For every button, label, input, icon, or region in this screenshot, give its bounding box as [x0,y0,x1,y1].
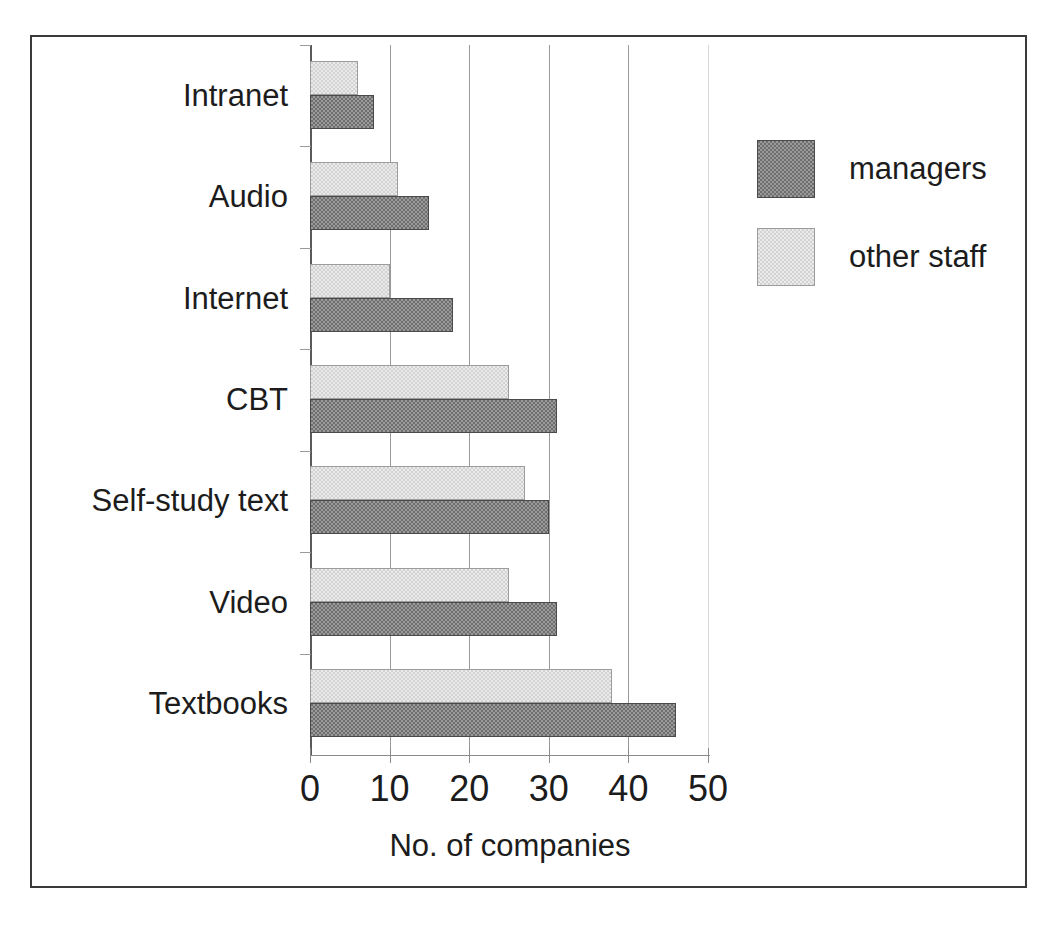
bar-other-staff-video [310,568,509,602]
legend-swatch-managers-icon [757,140,815,198]
legend-swatch-other-staff-icon [757,228,815,286]
x-tick-0 [310,748,311,763]
bar-managers-intranet [310,95,374,129]
bar-other-staff-self-study-text [310,466,525,500]
bar-managers-video [310,602,557,636]
bar-managers-textbooks [310,703,676,737]
chart-legend: managers other staff [757,140,1007,316]
legend-item-other-staff: other staff [757,228,1007,316]
category-label-self-study-text: Self-study text [92,484,288,518]
x-tick-40 [628,748,629,763]
y-tick-4 [300,451,311,452]
y-tick-6 [300,654,311,655]
x-tick-label-20: 20 [429,768,509,810]
y-tick-1 [300,146,311,147]
x-tick-20 [469,748,470,763]
category-label-intranet: Intranet [183,79,288,113]
bar-other-staff-intranet [310,61,358,95]
gridline-50 [708,45,709,755]
bar-managers-self-study-text [310,500,549,534]
bar-other-staff-internet [310,264,390,298]
category-label-cbt: CBT [226,383,288,417]
legend-item-managers: managers [757,140,1007,228]
x-axis-title: No. of companies [310,828,710,864]
x-tick-label-0: 0 [270,768,350,810]
gridline-40 [628,45,629,755]
category-label-textbooks: Textbooks [148,687,288,721]
bar-other-staff-cbt [310,365,509,399]
category-label-audio: Audio [209,180,288,214]
x-tick-label-50: 50 [668,768,748,810]
plot-area [310,45,708,755]
x-tick-30 [549,748,550,763]
category-label-internet: Internet [183,282,288,316]
chart-figure: 01020304050 IntranetAudioInternetCBTSelf… [0,0,1054,927]
x-tick-label-30: 30 [509,768,589,810]
x-tick-label-10: 10 [350,768,430,810]
y-tick-2 [300,248,311,249]
category-axis-labels: IntranetAudioInternetCBTSelf-study textV… [60,45,288,755]
y-tick-3 [300,349,311,350]
x-tick-label-40: 40 [588,768,668,810]
x-tick-10 [390,748,391,763]
legend-label-other-staff: other staff [849,233,986,281]
bar-other-staff-textbooks [310,669,612,703]
y-tick-5 [300,552,311,553]
x-tick-50 [708,748,709,763]
bar-managers-audio [310,196,429,230]
x-axis-line [310,755,710,756]
bar-other-staff-audio [310,162,398,196]
bar-managers-cbt [310,399,557,433]
bar-managers-internet [310,298,453,332]
y-tick-0 [300,45,311,46]
category-label-video: Video [209,586,288,620]
legend-label-managers: managers [849,145,987,193]
